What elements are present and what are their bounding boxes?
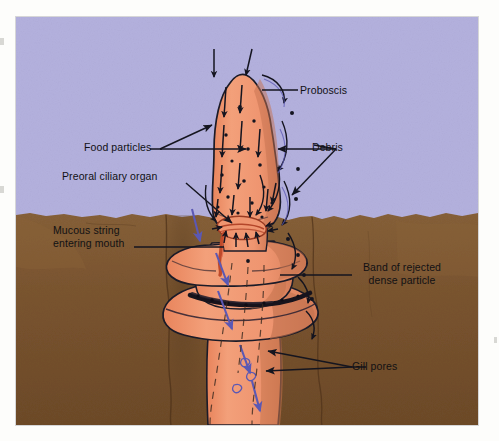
- label-food-particles: Food particles: [84, 141, 151, 154]
- label-preoral-ciliary-organ: Preoral ciliary organ: [62, 170, 157, 183]
- label-gill-pores: Gill pores: [352, 360, 397, 373]
- scan-edge-mark: [494, 337, 497, 343]
- label-mucous-string: Mucous string entering mouth: [53, 224, 124, 249]
- label-mucous-string-line1: Mucous string: [53, 224, 124, 237]
- label-band-of-rejected: Band of rejected dense particle: [352, 261, 452, 286]
- label-band-of-rejected-line1: Band of rejected: [352, 261, 452, 274]
- scan-edge-mark: [0, 38, 4, 45]
- label-proboscis: Proboscis: [300, 84, 347, 97]
- scan-edge-mark: [0, 186, 4, 193]
- label-mucous-string-line2: entering mouth: [53, 237, 124, 250]
- figure-stage: Proboscis Food particles Debris Preoral …: [0, 0, 499, 441]
- label-debris: Debris: [312, 141, 343, 154]
- label-band-of-rejected-line2: dense particle: [352, 274, 452, 287]
- biology-diagram: [16, 17, 478, 425]
